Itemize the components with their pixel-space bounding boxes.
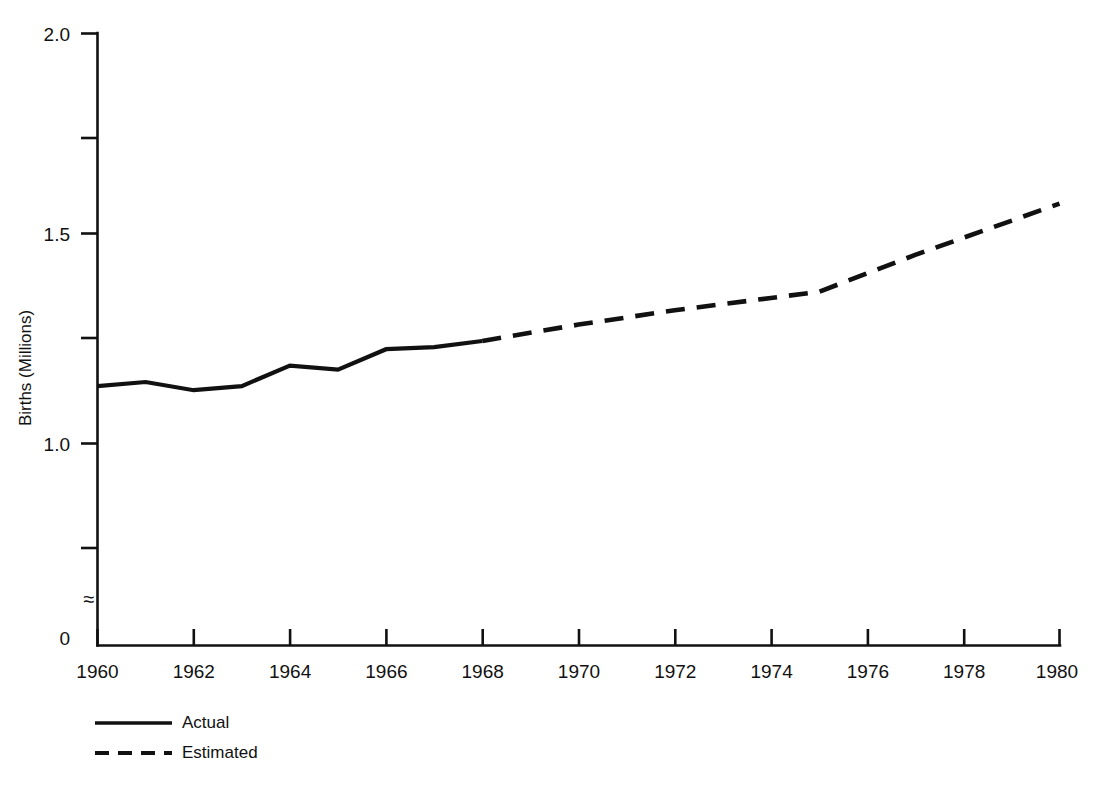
y-tick-label-0: 0 [59, 628, 70, 649]
chart-figure: ≈ 2.0 1.5 1.0 0 Births (Millions) 1960 [0, 0, 1107, 797]
x-tick-label-1960: 1960 [76, 661, 118, 682]
series-line-estimated [482, 204, 1059, 341]
y-axis-tick-labels: 2.0 1.5 1.0 0 [44, 24, 70, 649]
chart-legend: Actual Estimated [95, 713, 258, 762]
births-line-chart: ≈ 2.0 1.5 1.0 0 Births (Millions) 1960 [0, 0, 1107, 797]
x-tick-label-1978: 1978 [943, 661, 985, 682]
x-axis-tick-labels: 1960 1962 1964 1966 1968 1970 1972 1974 … [76, 661, 1078, 682]
legend-label-estimated: Estimated [182, 743, 258, 762]
y-axis-ticks [81, 34, 97, 549]
axis-break-icon: ≈ [84, 588, 95, 610]
x-tick-label-1968: 1968 [462, 661, 504, 682]
x-tick-label-1980: 1980 [1036, 661, 1078, 682]
y-tick-label-2-0: 2.0 [44, 24, 70, 45]
legend-item-estimated: Estimated [95, 743, 258, 762]
x-tick-label-1972: 1972 [654, 661, 696, 682]
x-tick-label-1974: 1974 [750, 661, 793, 682]
x-tick-label-1976: 1976 [847, 661, 889, 682]
y-axis-title: Births (Millions) [16, 310, 35, 426]
legend-item-actual: Actual [95, 713, 229, 732]
x-tick-label-1964: 1964 [269, 661, 312, 682]
x-tick-label-1970: 1970 [558, 661, 600, 682]
x-tick-label-1962: 1962 [173, 661, 215, 682]
x-tick-label-1966: 1966 [365, 661, 407, 682]
x-axis-ticks [98, 629, 1060, 645]
series-line-actual [98, 341, 483, 390]
legend-label-actual: Actual [182, 713, 229, 732]
y-tick-label-1-5: 1.5 [44, 224, 70, 245]
y-tick-label-1-0: 1.0 [44, 434, 70, 455]
axis-spines [98, 33, 1061, 646]
